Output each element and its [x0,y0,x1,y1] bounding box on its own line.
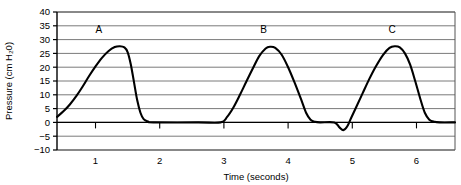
y-tick-label: −5 [39,131,50,142]
pressure-time-chart: −10−50510152025303540 123456 ABC Time (s… [0,0,461,185]
y-tick-label: 5 [45,103,50,114]
x-axis-title: Time (seconds) [223,171,288,182]
x-tick-label: 4 [285,155,290,166]
y-tick-label: 20 [39,62,50,73]
y-tick-label: 0 [45,117,50,128]
x-tick-label: 2 [157,155,162,166]
peak-label-b: B [260,24,267,35]
x-tick-label: 6 [414,155,419,166]
x-tick-label: 5 [350,155,355,166]
chart-canvas: −10−50510152025303540 123456 ABC Time (s… [0,0,461,185]
peak-label-c: C [388,24,395,35]
peak-label-a: A [95,24,102,35]
x-tick-label: 1 [93,155,98,166]
y-tick-label: 25 [39,48,50,59]
y-tick-label: 30 [39,34,50,45]
y-axis-title: Pressure (cm H₂0) [3,42,14,120]
y-tick-label-group: −10−50510152025303540 [34,6,50,155]
x-tick-label: 3 [221,155,226,166]
y-tick-label: 35 [39,20,50,31]
y-tick-label: −10 [34,144,50,155]
x-tick-label-group: 123456 [93,155,419,166]
y-tick-label: 10 [39,89,50,100]
y-tick-label: 40 [39,6,50,17]
y-tick-label: 15 [39,75,50,86]
